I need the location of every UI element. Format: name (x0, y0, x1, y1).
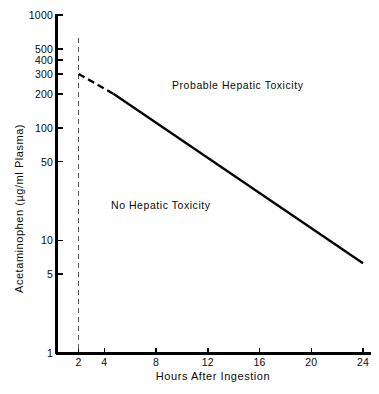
y-axis-tick-label: 100 (35, 122, 53, 134)
plot-canvas (0, 0, 379, 394)
x-axis-tick-label: 20 (305, 356, 317, 368)
y-axis-tick-label: 300 (35, 68, 53, 80)
nomogram-figure: 1510501002003004005001000 24812162024 Pr… (0, 0, 379, 394)
x-axis-tick-label: 16 (253, 356, 265, 368)
x-axis-tick-label: 2 (75, 356, 81, 368)
y-axis-tick-label: 200 (35, 88, 53, 100)
y-axis-tick-label: 500 (35, 43, 53, 55)
x-axis-tick-label: 12 (202, 356, 214, 368)
no-hepatic-toxicity-label: No Hepatic Toxicity (111, 199, 211, 211)
probable-hepatic-toxicity-label: Probable Hepatic Toxicity (172, 79, 303, 91)
x-axis-tick-label: 4 (101, 356, 107, 368)
y-axis-title: Acetaminophen (µg/ml Plasma) (13, 124, 25, 293)
y-axis-tick-label: 10 (41, 234, 53, 246)
treatment-line-solid-segment (113, 94, 363, 263)
x-axis-tick-label: 8 (153, 356, 159, 368)
y-axis-tick-label: 5 (47, 268, 53, 280)
y-axis-tick-label: 1 (47, 347, 53, 359)
x-axis-title: Hours After Ingestion (156, 370, 270, 382)
y-axis-tick-label: 1000 (29, 9, 53, 21)
treatment-line-dashed-segment (79, 74, 114, 94)
x-axis-tick-label: 24 (357, 356, 369, 368)
y-axis-tick-label: 400 (35, 54, 53, 66)
y-axis-tick-label: 50 (41, 156, 53, 168)
